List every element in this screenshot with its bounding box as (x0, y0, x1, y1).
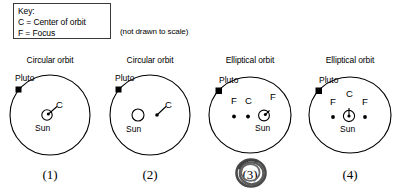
pluto-marker-1 (16, 87, 22, 93)
pluto-marker-2 (116, 87, 122, 93)
focus-right-label-4: F (362, 96, 368, 107)
orbit-diagram-3 (200, 65, 300, 165)
focus-left-dot-4 (331, 115, 335, 119)
pluto-label-4: Pluto (319, 75, 338, 85)
orbit-circle-1 (10, 75, 90, 155)
sun-label-1: Sun (35, 123, 50, 133)
center-label-2: C (165, 99, 172, 110)
focus-left-label-4: F (330, 96, 336, 107)
key-title: Key: (18, 6, 110, 17)
choice-panel-2[interactable]: Circular orbit Pluto C Sun (2) (100, 55, 200, 191)
pluto-marker-4 (316, 88, 323, 95)
key-focus-definition: F = Focus (18, 28, 110, 39)
center-label-3: C (245, 95, 252, 106)
focus-right-dot-4 (363, 115, 367, 119)
orbit-title-3: Elliptical orbit (200, 55, 300, 65)
pluto-label-2: Pluto (115, 73, 134, 83)
sun-label-4: Sun (340, 124, 355, 134)
choice-number-3: (3) (200, 167, 300, 183)
choice-number-2: (2) (100, 167, 200, 183)
focus-left-dot-3 (232, 115, 236, 119)
focus-left-label-3: F (231, 95, 237, 106)
center-label-4: C (346, 88, 353, 99)
orbit-diagram-4 (300, 65, 400, 165)
pluto-label-3: Pluto (219, 75, 238, 85)
center-dot-3 (246, 115, 250, 119)
pluto-marker-3 (216, 88, 223, 95)
orbit-title-2: Circular orbit (100, 55, 200, 65)
choice-number-1: (1) (0, 167, 100, 183)
orbit-circle-2 (110, 75, 190, 155)
sun-circle-1 (42, 110, 52, 120)
key-center-definition: C = Center of orbit (18, 17, 110, 28)
pluto-label-1: Pluto (15, 73, 34, 83)
sun-circle-2 (132, 109, 144, 121)
sun-label-3: Sun (255, 123, 270, 133)
choice-panel-1[interactable]: Circular orbit Pluto C Sun (1) (0, 55, 100, 191)
orbit-title-4: Elliptical orbit (300, 55, 400, 65)
orbit-title-1: Circular orbit (0, 55, 100, 65)
choice-panel-4[interactable]: Elliptical orbit Pluto F C F Sun (4) (300, 55, 400, 191)
sun-label-2: Sun (126, 124, 141, 134)
center-label-1: C (56, 99, 63, 110)
not-to-scale-note: (not drawn to scale) (120, 27, 188, 36)
choice-number-4: (4) (300, 167, 400, 183)
choice-panel-3[interactable]: Elliptical orbit Pluto F C F Sun (3) (200, 55, 300, 191)
focus-right-label-3: F (270, 91, 276, 102)
key-box: Key: C = Center of orbit F = Focus (13, 3, 111, 39)
